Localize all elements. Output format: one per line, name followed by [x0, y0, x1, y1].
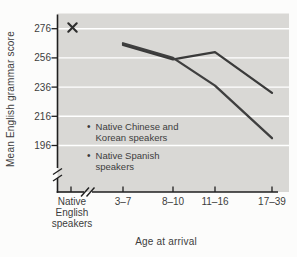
bullet-dot-icon: • — [87, 151, 91, 161]
y-tick-label-256: 256 — [21, 52, 51, 63]
legend: • Native Chinese and Korean speakers • N… — [87, 122, 205, 180]
y-tick-label-196: 196 — [21, 140, 51, 151]
legend-item-chinese-korean: • Native Chinese and Korean speakers — [87, 122, 205, 143]
x-tick-label-native-english: Native English speakers — [41, 196, 103, 229]
x-tick-label-3: 11–16 — [185, 196, 245, 207]
x-tick-label-4: 17–39 — [242, 196, 297, 207]
y-axis-title: Mean English grammar score — [5, 31, 16, 167]
y-tick-label-276: 276 — [21, 23, 51, 34]
bullet-dot-icon: • — [87, 122, 91, 132]
grammar-score-figure: Mean English grammar score 2762562362161… — [0, 0, 297, 257]
legend-item-spanish: • Native Spanish speakers — [87, 151, 205, 172]
y-tick-label-216: 216 — [21, 111, 51, 122]
legend-label-spanish: Native Spanish speakers — [96, 151, 192, 172]
y-tick-label-236: 236 — [21, 82, 51, 93]
legend-label-chinese-korean: Native Chinese and Korean speakers — [96, 122, 192, 143]
x-axis-title: Age at arrival — [116, 236, 216, 247]
